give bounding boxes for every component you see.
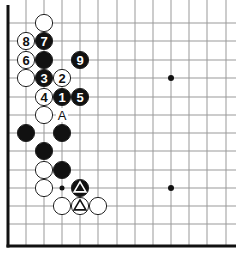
move-number: 6 bbox=[22, 53, 29, 68]
white-stone-icon bbox=[17, 69, 34, 86]
white-stone bbox=[35, 161, 52, 178]
white-stone bbox=[35, 106, 52, 123]
white-stone-icon bbox=[35, 179, 52, 196]
move-number: 2 bbox=[58, 71, 65, 86]
move-number: 1 bbox=[58, 90, 65, 105]
white-stone bbox=[71, 197, 88, 214]
black-stone: 1 bbox=[53, 88, 70, 105]
white-stone: 8 bbox=[17, 32, 34, 49]
white-stone bbox=[89, 197, 106, 214]
black-stone bbox=[53, 124, 70, 141]
white-stone bbox=[35, 14, 52, 31]
white-stone-icon bbox=[35, 14, 52, 31]
move-number: 9 bbox=[76, 53, 83, 68]
white-stone-icon bbox=[89, 197, 106, 214]
move-number: 5 bbox=[76, 90, 83, 105]
letter-marks: A bbox=[56, 108, 68, 123]
white-stone: 6 bbox=[17, 51, 34, 68]
white-stone: 4 bbox=[35, 88, 52, 105]
move-number: 3 bbox=[40, 71, 47, 86]
white-stone-icon bbox=[35, 161, 52, 178]
black-stone: 3 bbox=[35, 69, 52, 86]
white-stone-icon bbox=[53, 197, 70, 214]
black-stone-icon bbox=[53, 124, 70, 141]
black-stone: 7 bbox=[35, 32, 52, 49]
black-stone: 9 bbox=[71, 51, 88, 68]
move-number: 8 bbox=[22, 34, 29, 49]
black-stone bbox=[35, 142, 52, 159]
black-stone: 5 bbox=[71, 88, 88, 105]
black-stone bbox=[17, 124, 34, 141]
go-board: 876932415 A bbox=[0, 0, 242, 253]
move-number: 4 bbox=[40, 90, 48, 105]
white-stone bbox=[17, 69, 34, 86]
black-stone-icon bbox=[35, 142, 52, 159]
letter-mark: A bbox=[58, 108, 67, 123]
white-stone bbox=[53, 197, 70, 214]
dot-mark-icon bbox=[60, 186, 65, 191]
black-stone bbox=[53, 161, 70, 178]
black-stone-icon bbox=[17, 124, 34, 141]
white-stone: 2 bbox=[53, 69, 70, 86]
white-stone bbox=[35, 179, 52, 196]
star-point-icon bbox=[168, 75, 174, 81]
black-stone-icon bbox=[53, 161, 70, 178]
star-point-icon bbox=[168, 185, 174, 191]
black-stone bbox=[71, 179, 88, 196]
black-stone bbox=[35, 51, 52, 68]
black-stone-icon bbox=[35, 51, 52, 68]
white-stone-icon bbox=[35, 106, 52, 123]
small-marks bbox=[60, 186, 65, 191]
move-number: 7 bbox=[40, 34, 47, 49]
